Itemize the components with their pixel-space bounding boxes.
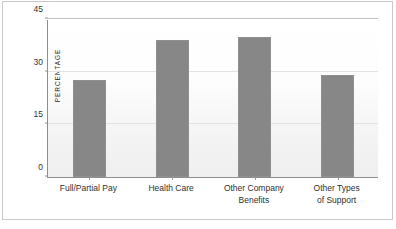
gridline <box>48 18 378 19</box>
y-tick-label: 30 <box>34 57 43 67</box>
x-tick-label: Other Company Benefits <box>213 183 296 206</box>
bar <box>321 75 354 177</box>
x-tick-mark <box>172 177 173 180</box>
y-tick-mark <box>45 123 48 124</box>
y-tick-label: 45 <box>34 4 43 14</box>
x-tick-label: Full/Partial Pay <box>47 183 130 195</box>
chart-figure: PERCENTAGE 0153045 Full/Partial PayHealt… <box>0 0 396 229</box>
x-tick-mark <box>89 177 90 180</box>
y-tick-mark <box>45 18 48 19</box>
bar <box>238 37 271 177</box>
y-tick-mark <box>45 70 48 71</box>
x-tick-label: Other Types of Support <box>295 183 378 206</box>
bar <box>156 40 189 177</box>
y-tick-label: 0 <box>38 162 43 172</box>
y-axis-title: PERCENTAGE <box>54 31 61 121</box>
x-tick-mark <box>255 177 256 180</box>
plot-area: PERCENTAGE 0153045 <box>47 20 378 178</box>
y-tick-mark <box>45 176 48 177</box>
bar <box>73 80 106 177</box>
x-tick-mark <box>338 177 339 180</box>
x-tick-label: Health Care <box>130 183 213 195</box>
y-tick-label: 15 <box>34 109 43 119</box>
gridline <box>48 71 378 72</box>
